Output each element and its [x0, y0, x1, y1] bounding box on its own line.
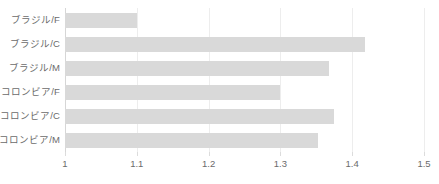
bar — [65, 61, 329, 76]
tick-mark — [352, 152, 353, 156]
x-axis-tick-label: 1.2 — [202, 158, 215, 169]
bar-item — [65, 104, 334, 128]
category-label: コロンビア/F — [1, 80, 60, 104]
x-axis-tick-label: 1.1 — [130, 158, 143, 169]
bar-series — [65, 8, 424, 152]
category-label: コロンビア/M — [0, 128, 60, 152]
bar-item — [65, 8, 137, 32]
bar-item — [65, 128, 318, 152]
gridline — [424, 8, 425, 152]
bar — [65, 13, 137, 28]
x-axis-tick-label: 1 — [62, 158, 67, 169]
tick-mark — [280, 152, 281, 156]
category-label: ブラジル/M — [9, 56, 60, 80]
bar-item — [65, 32, 365, 56]
bar — [65, 133, 318, 148]
category-label: ブラジル/C — [10, 32, 60, 56]
x-axis-tick-label: 1.5 — [417, 158, 430, 169]
x-axis-tick-label: 1.4 — [346, 158, 359, 169]
bar-item — [65, 80, 280, 104]
bar — [65, 109, 334, 124]
bar-item — [65, 56, 329, 80]
bar-chart: ブラジル/Fブラジル/Cブラジル/Mコロンビア/Fコロンビア/Cコロンビア/M … — [0, 0, 439, 184]
category-axis-labels: ブラジル/Fブラジル/Cブラジル/Mコロンビア/Fコロンビア/Cコロンビア/M — [0, 8, 60, 152]
bar — [65, 85, 280, 100]
bar — [65, 37, 365, 52]
tick-mark — [65, 152, 66, 156]
plot-area — [65, 8, 424, 152]
tick-mark — [424, 152, 425, 156]
category-label: コロンビア/C — [0, 104, 60, 128]
tick-mark — [209, 152, 210, 156]
x-axis-tick-labels: 11.11.21.31.41.5 — [0, 158, 439, 176]
category-label: ブラジル/F — [11, 8, 60, 32]
tick-mark — [137, 152, 138, 156]
x-axis-tick-label: 1.3 — [274, 158, 287, 169]
x-axis-tick-marks — [0, 152, 439, 157]
